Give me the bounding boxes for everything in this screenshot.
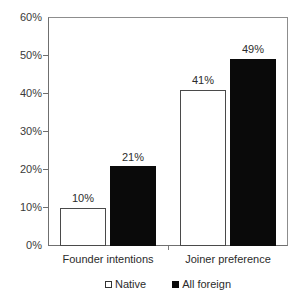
x-category-label-founder-intentions: Founder intentions: [44, 252, 172, 266]
bar-founder-intentions-all-foreign[interactable]: [110, 166, 156, 246]
bar-chart-figure: 60% 50% 40% 30% 20% 10% 0% 10% 21% 41% 4…: [0, 0, 301, 299]
bar-joiner-preference-all-foreign[interactable]: [230, 59, 276, 246]
y-tick-label-20: 20%: [20, 163, 42, 175]
legend-item-native[interactable]: Native: [105, 278, 146, 290]
filled-square-marker-icon: [172, 281, 179, 288]
y-tick-label-50: 50%: [20, 49, 42, 61]
y-tick-label-40: 40%: [20, 87, 42, 99]
category-separator-tick: [168, 246, 169, 250]
legend-label-native: Native: [115, 278, 146, 290]
chart-legend: Native All foreign: [48, 276, 288, 292]
legend-label-all-foreign: All foreign: [182, 278, 231, 290]
y-tick-label-60: 60%: [20, 11, 42, 23]
y-tick-label-10: 10%: [20, 201, 42, 213]
value-label-joiner-foreign: 49%: [230, 43, 276, 55]
bar-founder-intentions-native[interactable]: [60, 208, 106, 246]
value-label-joiner-native: 41%: [180, 74, 226, 86]
bars-layer: 10% 21% 41% 49%: [48, 17, 288, 246]
y-axis: 60% 50% 40% 30% 20% 10% 0%: [0, 17, 48, 246]
y-tick-label-0: 0%: [26, 239, 42, 251]
x-axis: Founder intentions Joiner preference: [48, 252, 288, 270]
cropped-text-remnant: [0, 0, 301, 3]
y-tick-label-30: 30%: [20, 125, 42, 137]
x-category-label-joiner-preference: Joiner preference: [164, 252, 292, 266]
legend-item-all-foreign[interactable]: All foreign: [172, 278, 231, 290]
bar-joiner-preference-native[interactable]: [180, 90, 226, 246]
value-label-founder-foreign: 21%: [110, 151, 156, 163]
value-label-founder-native: 10%: [60, 192, 106, 204]
open-square-marker-icon: [105, 281, 112, 288]
